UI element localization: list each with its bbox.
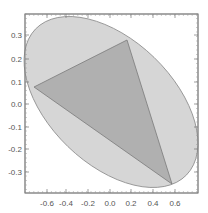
x-tick-label: 0.0 [104,199,116,208]
y-tick-label: 0.2 [11,55,23,64]
y-tick-label: 0.3 [11,31,23,40]
y-tick-label: -0.3 [8,168,22,177]
x-tick-label: -0.6 [40,199,54,208]
x-tick-label: 0.4 [147,199,159,208]
y-tick-label: -0.1 [8,123,22,132]
x-tick-label: 0.2 [125,199,137,208]
y-tick-label: 0.1 [11,78,23,87]
x-tick-label: -0.2 [81,199,95,208]
y-tick-label: -0.2 [8,145,22,154]
y-tick-label: 0.0 [11,100,23,109]
x-tick-label: -0.4 [59,199,73,208]
chart: -0.6-0.4-0.20.00.20.40.6 0.30.20.10.0-0.… [0,0,208,213]
x-tick-label: 0.6 [169,199,181,208]
